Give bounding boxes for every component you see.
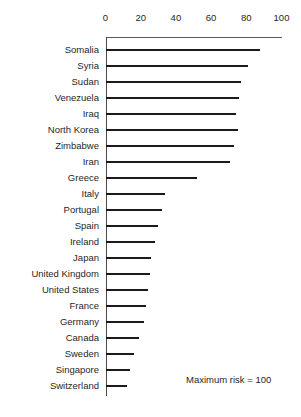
- category-label-iran: Iran: [0, 156, 99, 167]
- bar-row: France: [0, 300, 301, 317]
- category-label-syria: Syria: [0, 60, 99, 71]
- bar-row: Sudan: [0, 76, 301, 93]
- category-label-canada: Canada: [0, 332, 99, 343]
- bar-iran: [106, 161, 231, 163]
- plot-top-rule: [106, 37, 282, 38]
- bar-row: United Kingdom: [0, 268, 301, 285]
- bar-japan: [106, 257, 152, 259]
- category-label-japan: Japan: [0, 252, 99, 263]
- bar-spain: [106, 225, 159, 227]
- risk-bar-chart: 020406080100 SomaliaSyriaSudanVenezuelaI…: [0, 0, 301, 417]
- bar-row: Ireland: [0, 236, 301, 253]
- bar-singapore: [106, 369, 131, 371]
- bar-row: Venezuela: [0, 92, 301, 109]
- bar-germany: [106, 321, 145, 323]
- bar-row: Greece: [0, 172, 301, 189]
- bar-somalia: [106, 49, 261, 51]
- bar-portugal: [106, 209, 162, 211]
- category-label-iraq: Iraq: [0, 108, 99, 119]
- bar-row: United States: [0, 284, 301, 301]
- category-label-venezuela: Venezuela: [0, 92, 99, 103]
- x-axis-tick-60: 60: [206, 13, 217, 23]
- bar-greece: [106, 177, 198, 179]
- x-axis-tick-80: 80: [241, 13, 252, 23]
- bar-france: [106, 305, 146, 307]
- bar-row: Somalia: [0, 44, 301, 61]
- category-label-greece: Greece: [0, 172, 99, 183]
- bar-row: Spain: [0, 220, 301, 237]
- category-label-switzerland: Switzerland: [0, 380, 99, 391]
- category-label-ireland: Ireland: [0, 236, 99, 247]
- bar-row: Sweden: [0, 348, 301, 365]
- category-label-somalia: Somalia: [0, 44, 99, 55]
- bar-row: Portugal: [0, 204, 301, 221]
- bar-row: Canada: [0, 332, 301, 349]
- x-axis-tick-20: 20: [135, 13, 146, 23]
- category-label-united-kingdom: United Kingdom: [0, 268, 99, 279]
- category-label-spain: Spain: [0, 220, 99, 231]
- bar-ireland: [106, 241, 155, 243]
- bar-syria: [106, 65, 249, 67]
- category-label-zimbabwe: Zimbabwe: [0, 140, 99, 151]
- bar-row: Japan: [0, 252, 301, 269]
- bar-canada: [106, 337, 139, 339]
- bar-switzerland: [106, 385, 127, 387]
- bar-zimbabwe: [106, 145, 234, 147]
- bar-venezuela: [106, 97, 240, 99]
- x-axis-tick-40: 40: [171, 13, 182, 23]
- category-label-portugal: Portugal: [0, 204, 99, 215]
- bar-sudan: [106, 81, 242, 83]
- category-label-france: France: [0, 300, 99, 311]
- bar-row: North Korea: [0, 124, 301, 141]
- category-label-singapore: Singapore: [0, 364, 99, 375]
- x-axis-tick-100: 100: [274, 13, 290, 23]
- bar-iraq: [106, 113, 236, 115]
- bar-row: Zimbabwe: [0, 140, 301, 157]
- bar-row: Germany: [0, 316, 301, 333]
- bar-row: Italy: [0, 188, 301, 205]
- bar-italy: [106, 193, 166, 195]
- x-axis-tick-0: 0: [103, 13, 108, 23]
- category-label-united-states: United States: [0, 284, 99, 295]
- bar-united-kingdom: [106, 273, 150, 275]
- category-label-sudan: Sudan: [0, 76, 99, 87]
- category-label-italy: Italy: [0, 188, 99, 199]
- category-label-germany: Germany: [0, 316, 99, 327]
- category-label-sweden: Sweden: [0, 348, 99, 359]
- max-risk-note: Maximum risk = 100: [186, 374, 271, 385]
- bar-sweden: [106, 353, 134, 355]
- bar-row: Iran: [0, 156, 301, 173]
- bar-row: Syria: [0, 60, 301, 77]
- bar-united-states: [106, 289, 148, 291]
- category-label-north-korea: North Korea: [0, 124, 99, 135]
- bar-row: Iraq: [0, 108, 301, 125]
- bar-north-korea: [106, 129, 238, 131]
